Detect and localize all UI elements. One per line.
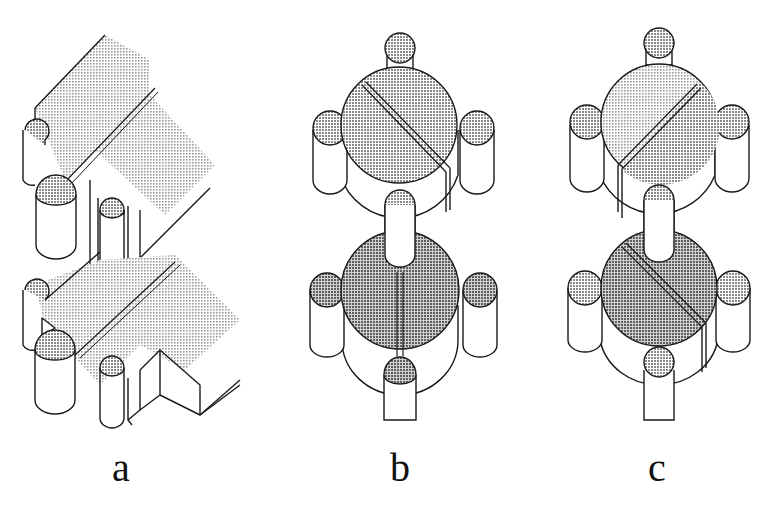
- panel-b-drawing: [280, 0, 520, 440]
- lower-disc-unit: [568, 200, 750, 420]
- lower-disc-unit: [310, 205, 497, 420]
- upper-slab: [23, 35, 215, 275]
- panel-b-label: b: [390, 448, 410, 488]
- panel-c: c: [540, 0, 773, 440]
- lower-slab: [23, 252, 240, 428]
- panel-a-label: a: [112, 448, 130, 488]
- panel-c-label: c: [648, 448, 666, 488]
- panel-a: a: [0, 0, 260, 440]
- panel-b: b: [280, 0, 520, 440]
- panel-a-drawing: [0, 0, 260, 440]
- panel-c-drawing: [540, 0, 773, 440]
